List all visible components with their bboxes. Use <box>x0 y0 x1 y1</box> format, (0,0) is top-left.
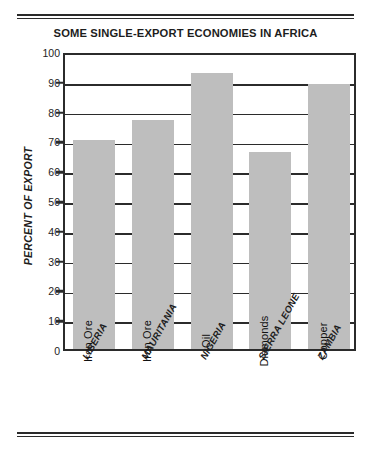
bottom-double-rule <box>17 432 354 437</box>
bottom-rule-thin-line <box>17 436 354 437</box>
y-tick-mark <box>56 290 65 293</box>
y-tick-mark <box>56 201 65 204</box>
plot-area: Iron OreIron OreOilDiamondsCopper <box>63 53 356 351</box>
y-tick-label: 60 <box>16 166 60 178</box>
y-tick-mark <box>56 231 65 234</box>
bar: Oil <box>191 73 233 349</box>
bar: Copper <box>308 84 350 349</box>
y-tick-label: 80 <box>16 107 60 119</box>
y-tick-label: 100 <box>16 47 60 59</box>
y-tick-label: 70 <box>16 136 60 148</box>
y-tick-mark <box>56 82 65 85</box>
y-tick-mark <box>56 320 65 323</box>
bar: Iron Ore <box>73 140 115 349</box>
y-tick-label: 0 <box>16 345 60 357</box>
plot-inner: Iron OreIron OreOilDiamondsCopper <box>65 55 354 349</box>
top-double-rule <box>17 14 354 19</box>
y-tick-mark <box>56 260 65 263</box>
y-tick-mark <box>56 111 65 114</box>
y-tick-label: 40 <box>16 226 60 238</box>
y-tick-mark <box>56 171 65 174</box>
y-tick-mark <box>56 141 65 144</box>
y-tick-label: 20 <box>16 285 60 297</box>
chart-page: SOME SINGLE-EXPORT ECONOMIES IN AFRICA P… <box>0 0 371 453</box>
y-tick-label: 90 <box>16 77 60 89</box>
chart-title: SOME SINGLE-EXPORT ECONOMIES IN AFRICA <box>0 27 371 39</box>
y-tick-label: 50 <box>16 196 60 208</box>
y-tick-label: 10 <box>16 315 60 327</box>
y-tick-label: 30 <box>16 256 60 268</box>
top-rule-thin-line <box>17 18 354 19</box>
